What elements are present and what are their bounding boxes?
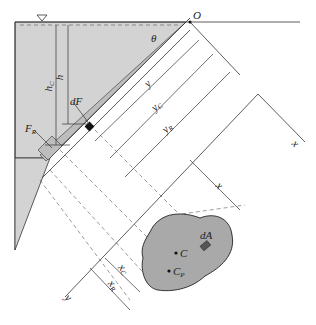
origin-label: O	[193, 10, 201, 21]
FR-label: FR	[25, 123, 36, 136]
x-axis	[258, 94, 305, 142]
hc-label: hC	[43, 81, 56, 91]
h-label: h	[54, 75, 65, 81]
dF-element	[85, 122, 95, 132]
diagram-graphics	[0, 0, 316, 325]
angle-label: θ	[151, 33, 156, 44]
hydrostatic-diagram: O θ hC h dF FR y yC yR x x y xC xR C CP …	[0, 0, 316, 325]
origin-point	[189, 21, 192, 24]
dA-label: dA	[200, 230, 212, 241]
centroid-point	[174, 251, 177, 254]
pressure-center-point	[167, 269, 170, 272]
dF-label: dF	[70, 96, 82, 107]
pressure-center-label: CP	[173, 266, 185, 279]
centroid-label: C	[180, 248, 187, 259]
free-surface-symbol	[37, 15, 47, 21]
plate-area	[142, 214, 233, 291]
